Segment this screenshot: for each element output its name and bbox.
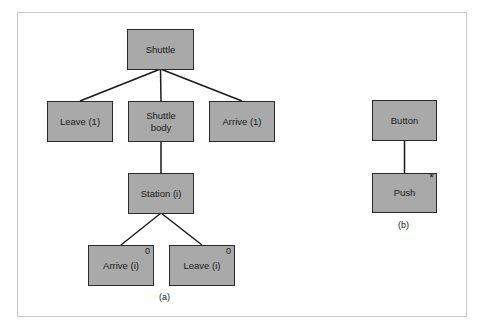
node-shuttle: Shuttle — [127, 29, 194, 70]
zero-marker: 0 — [145, 247, 150, 256]
node-label: Leave (1) — [60, 116, 100, 128]
node-label: Push — [394, 187, 416, 199]
tree-edges — [0, 0, 481, 327]
node-push: Push * — [372, 173, 437, 213]
node-label: Button — [391, 115, 418, 127]
caption-b: (b) — [398, 220, 409, 230]
edge-station-i-leave-i — [161, 213, 202, 245]
node-arrive-i: Arrive (i) 0 — [88, 245, 154, 286]
node-label: Arrive (1) — [222, 116, 261, 128]
node-label: Shuttle — [146, 44, 176, 56]
star-marker: * — [429, 174, 434, 183]
edge-shuttle-arrive-1 — [161, 69, 243, 101]
node-arrive-1: Arrive (1) — [209, 101, 275, 142]
zero-marker: 0 — [226, 247, 231, 256]
caption-a: (a) — [159, 292, 170, 302]
node-label: Station (i) — [141, 188, 182, 200]
node-shuttle-body: Shuttle body — [128, 101, 194, 142]
node-station-i: Station (i) — [128, 173, 194, 214]
edge-shuttle-leave-1 — [80, 69, 161, 101]
node-leave-1: Leave (1) — [47, 101, 113, 142]
node-label: Arrive (i) — [103, 260, 139, 272]
node-button: Button — [372, 100, 437, 141]
edge-shuttle-shuttle-body — [161, 69, 162, 101]
node-leave-i: Leave (i) 0 — [169, 245, 235, 286]
node-label: Leave (i) — [184, 260, 221, 272]
edge-station-i-arrive-i — [121, 213, 161, 245]
node-label: Shuttle body — [141, 110, 181, 134]
